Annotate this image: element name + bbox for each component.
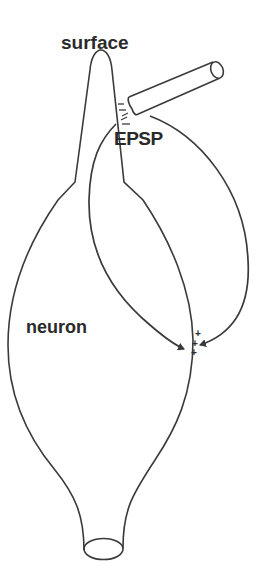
current-loop-inner-arrow bbox=[89, 124, 184, 349]
diagram-canvas: surface EPSP neuron + + + bbox=[0, 0, 263, 583]
current-loop-outer-arrow bbox=[150, 116, 248, 345]
surface-label: surface bbox=[61, 33, 129, 52]
positive-charge-3: + bbox=[191, 348, 197, 358]
neuron-label: neuron bbox=[26, 318, 87, 336]
negative-charges bbox=[118, 104, 130, 124]
axon-cut-ellipse bbox=[84, 539, 123, 560]
electrode-pipette bbox=[128, 60, 226, 115]
neuron-drawing bbox=[0, 0, 263, 583]
epsp-label: EPSP bbox=[114, 129, 163, 148]
neuron-outline-left bbox=[8, 50, 101, 550]
